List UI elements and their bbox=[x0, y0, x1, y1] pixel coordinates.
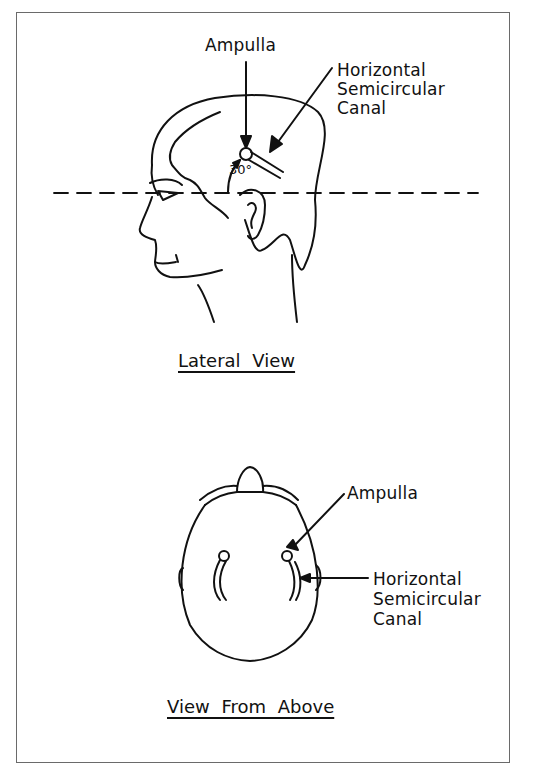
above-canal-label-line1: Horizontal bbox=[373, 570, 462, 589]
angle-label: 30° bbox=[229, 162, 252, 177]
lateral-head-drawing bbox=[54, 62, 478, 322]
lateral-canal-label-line2: Semicircular bbox=[337, 80, 445, 99]
above-head-drawing bbox=[179, 467, 368, 661]
lateral-ampulla-label: Ampulla bbox=[205, 36, 276, 55]
lateral-canal-label-line3: Canal bbox=[337, 99, 386, 118]
above-canal-label-line2: Semicircular bbox=[373, 590, 481, 609]
above-ampulla-label: Ampulla bbox=[347, 484, 418, 503]
illustration bbox=[0, 0, 543, 769]
lateral-canal-label-line1: Horizontal bbox=[337, 61, 426, 80]
above-canal-label-line3: Canal bbox=[373, 610, 422, 629]
lateral-view-title: Lateral View bbox=[178, 350, 295, 371]
above-view-title: View From Above bbox=[167, 696, 334, 717]
